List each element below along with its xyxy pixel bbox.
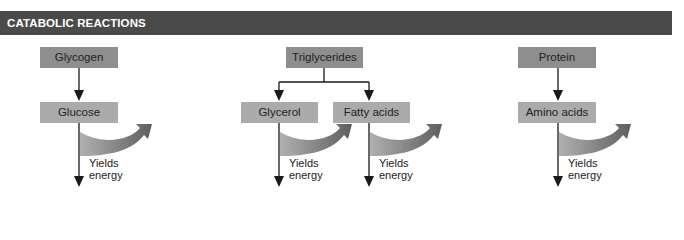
energy-label-line1: Yields — [89, 157, 123, 169]
box-label: Protein — [539, 51, 575, 63]
product-box-amino-acids: Amino acids — [518, 102, 596, 123]
product-box-fatty-acids: Fatty acids — [333, 102, 410, 123]
product-box-glycerol: Glycerol — [241, 102, 318, 123]
arrowhead-icon — [274, 90, 284, 101]
arrowhead-icon — [274, 176, 284, 187]
box-label: Glycogen — [55, 51, 104, 63]
arrowhead-icon — [74, 176, 84, 187]
energy-label-line1: Yields — [289, 157, 323, 169]
energy-label-line1: Yields — [379, 157, 413, 169]
box-label: Triglycerides — [292, 51, 357, 63]
arrowhead-icon — [553, 176, 563, 187]
arrowhead-icon — [364, 90, 374, 101]
energy-label-line2: energy — [89, 169, 123, 181]
box-label: Fatty acids — [344, 106, 400, 118]
box-label: Glycerol — [258, 106, 300, 118]
energy-arrow-icon — [559, 124, 631, 156]
arrowhead-icon — [74, 90, 84, 101]
energy-label: Yields energy — [289, 157, 323, 181]
energy-label: Yields energy — [89, 157, 123, 181]
box-label: Glucose — [58, 106, 100, 118]
energy-arrow-icon — [370, 124, 442, 156]
energy-label: Yields energy — [568, 157, 602, 181]
energy-arrow-icon — [80, 124, 152, 156]
source-box-protein: Protein — [518, 47, 596, 68]
energy-label-line2: energy — [289, 169, 323, 181]
energy-label: Yields energy — [379, 157, 413, 181]
product-box-glucose: Glucose — [40, 102, 118, 123]
box-label: Amino acids — [526, 106, 589, 118]
source-box-triglycerides: Triglycerides — [286, 47, 363, 68]
energy-label-line2: energy — [379, 169, 413, 181]
source-box-glycogen: Glycogen — [40, 47, 118, 68]
energy-label-line1: Yields — [568, 157, 602, 169]
energy-arrow-icon — [280, 124, 352, 156]
arrowhead-icon — [364, 176, 374, 187]
energy-label-line2: energy — [568, 169, 602, 181]
arrowhead-icon — [553, 90, 563, 101]
